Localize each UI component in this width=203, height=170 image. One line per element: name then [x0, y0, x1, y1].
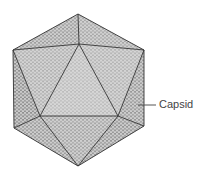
- capsid-diagram: [0, 0, 203, 170]
- capsid-label: Capsid: [159, 98, 193, 110]
